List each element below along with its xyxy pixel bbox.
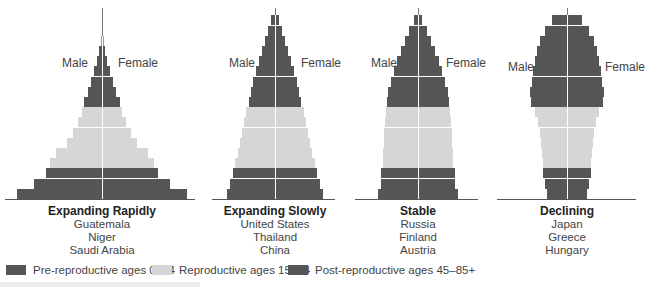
baseline-axis (212, 199, 335, 200)
legend-item-reproductive: Reproductive ages 15–44 (152, 264, 310, 276)
legend-item-pre-reproductive: Pre-reproductive ages 0–14 (6, 264, 175, 276)
legend: Pre-reproductive ages 0–14 Reproductive … (0, 264, 644, 276)
pyramid-caption: Expanding SlowlyUnited StatesThailandChi… (195, 205, 355, 257)
country-name: Japan (487, 218, 647, 231)
pyramid-title: Expanding Slowly (195, 205, 355, 218)
legend-swatch-dark (288, 265, 308, 275)
country-name: Greece (487, 231, 647, 244)
pyramid-apex-line (275, 8, 276, 15)
center-divider (567, 15, 568, 199)
center-divider (418, 15, 419, 199)
pyramid-apex-line (418, 8, 419, 15)
female-label: Female (118, 56, 158, 70)
pyramid-caption: DecliningJapanGreeceHungary (487, 205, 647, 257)
pyramid-apex-line (567, 8, 568, 15)
country-name: United States (195, 218, 355, 231)
center-divider (102, 36, 103, 199)
pyramid-caption: Expanding RapidlyGuatemalaNigerSaudi Ara… (22, 205, 182, 257)
male-label: Male (62, 56, 88, 70)
pyramid-apex-line (102, 8, 103, 36)
baseline-axis (355, 199, 478, 200)
legend-item-post-reproductive: Post-reproductive ages 45–85+ (288, 264, 475, 276)
legend-swatch-light (152, 265, 172, 275)
country-name: Saudi Arabia (22, 244, 182, 257)
pyramid-caption: StableRussiaFinlandAustria (338, 205, 498, 257)
country-name: Austria (338, 244, 498, 257)
male-label: Male (371, 56, 397, 70)
legend-swatch-dark (6, 265, 26, 275)
baseline-axis (5, 199, 195, 200)
female-label: Female (605, 60, 645, 74)
country-name: Guatemala (22, 218, 182, 231)
country-name: Russia (338, 218, 498, 231)
male-label: Male (229, 56, 255, 70)
cropped-caption-strip (0, 282, 200, 287)
legend-label: Post-reproductive ages 45–85+ (315, 264, 475, 276)
female-label: Female (301, 56, 341, 70)
country-name: Thailand (195, 231, 355, 244)
center-divider (275, 15, 276, 199)
baseline-axis (497, 199, 636, 200)
country-name: Finland (338, 231, 498, 244)
male-label: Male (508, 60, 534, 74)
country-name: Hungary (487, 244, 647, 257)
pyramid-title: Expanding Rapidly (22, 205, 182, 218)
pyramid-title: Declining (487, 205, 647, 218)
country-name: Niger (22, 231, 182, 244)
female-label: Female (446, 56, 486, 70)
pyramid-title: Stable (338, 205, 498, 218)
country-name: China (195, 244, 355, 257)
